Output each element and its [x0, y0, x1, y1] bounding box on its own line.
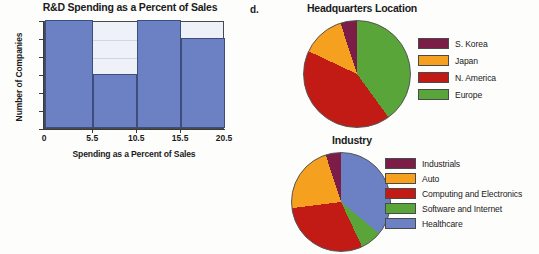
- x-axis-line: [43, 129, 225, 130]
- y-tick-mark: [39, 129, 44, 130]
- industry-pie-chart: [291, 152, 391, 252]
- headquarters-legend-item[interactable]: Japan: [418, 55, 496, 66]
- y-tick-mark: [39, 21, 44, 22]
- histogram-title: R&D Spending as a Percent of Sales: [20, 1, 240, 13]
- histogram-bar: [93, 74, 137, 128]
- legend-item-label: Japan: [455, 56, 478, 66]
- x-tick-mark: [92, 129, 93, 133]
- legend-item-label: Computing and Electronics: [422, 189, 522, 199]
- industry-legend-item[interactable]: Healthcare: [385, 218, 522, 229]
- x-tick-label: 5.5: [72, 133, 112, 143]
- histogram-bar: [181, 38, 225, 128]
- y-tick-mark: [39, 93, 44, 94]
- legend-color-swatch: [418, 38, 449, 49]
- x-tick-label: 0: [24, 133, 64, 143]
- legend-item-label: Europe: [455, 90, 482, 100]
- legend-item-label: Auto: [422, 174, 439, 184]
- headquarters-legend: S. KoreaJapanN. AmericaEurope: [418, 38, 496, 106]
- legend-color-swatch: [418, 55, 449, 66]
- industry-legend-item[interactable]: Computing and Electronics: [385, 188, 522, 199]
- headquarters-legend-item[interactable]: Europe: [418, 89, 496, 100]
- headquarters-pie-chart: [303, 20, 411, 128]
- x-tick-mark: [136, 129, 137, 133]
- x-tick-label: 20.5: [204, 133, 244, 143]
- legend-color-swatch: [385, 218, 416, 229]
- industry-legend: IndustrialsAutoComputing and Electronics…: [385, 158, 522, 233]
- legend-color-swatch: [385, 173, 416, 184]
- histogram-plot-area: [44, 21, 224, 129]
- histogram-panel: R&D Spending as a Percent of Sales Numbe…: [0, 0, 245, 175]
- headquarters-chart-title: Headquarters Location: [282, 2, 442, 14]
- histogram-y-axis-label: Number of Companies: [14, 22, 24, 132]
- x-tick-label: 15.5: [160, 133, 200, 143]
- legend-item-label: S. Korea: [455, 39, 488, 49]
- industry-legend-item[interactable]: Software and Internet: [385, 203, 522, 214]
- headquarters-legend-item[interactable]: N. America: [418, 72, 496, 83]
- legend-color-swatch: [385, 158, 416, 169]
- industry-legend-item[interactable]: Industrials: [385, 158, 522, 169]
- y-tick-mark: [39, 57, 44, 58]
- histogram-bar: [137, 20, 181, 128]
- x-tick-mark: [180, 129, 181, 133]
- headquarters-legend-item[interactable]: S. Korea: [418, 38, 496, 49]
- legend-item-label: N. America: [455, 73, 496, 83]
- legend-color-swatch: [385, 188, 416, 199]
- legend-item-label: Industrials: [422, 159, 460, 169]
- histogram-bar: [45, 20, 93, 128]
- legend-color-swatch: [418, 89, 449, 100]
- legend-color-swatch: [418, 72, 449, 83]
- legend-item-label: Software and Internet: [422, 204, 502, 214]
- y-tick-mark: [39, 39, 44, 40]
- legend-color-swatch: [385, 203, 416, 214]
- industry-legend-item[interactable]: Auto: [385, 173, 522, 184]
- x-tick-label: 10.5: [116, 133, 156, 143]
- histogram-x-axis-label: Spending as a Percent of Sales: [44, 149, 224, 159]
- y-tick-mark: [39, 111, 44, 112]
- panel-letter-d: d.: [250, 4, 259, 15]
- industry-chart-title: Industry: [272, 134, 432, 146]
- legend-item-label: Healthcare: [422, 219, 463, 229]
- y-tick-mark: [39, 75, 44, 76]
